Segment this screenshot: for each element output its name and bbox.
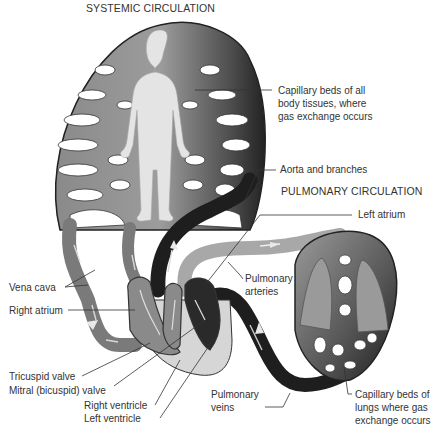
label-pulmonary-veins-line1: Pulmonary — [211, 388, 259, 401]
label-capillary-lungs-line1: Capillary beds of — [355, 388, 429, 401]
label-pulmonary-veins-line2: veins — [211, 401, 234, 414]
label-left-atrium: Left atrium — [358, 208, 405, 221]
label-tricuspid-valve: Tricuspid valve — [9, 370, 75, 383]
label-capillary-lungs-line3: exchange occurs — [355, 414, 431, 427]
label-capillary-body-line2: body tissues, where — [278, 97, 366, 110]
label-aorta: Aorta and branches — [280, 163, 367, 176]
lung-capillary-network — [295, 231, 397, 380]
systemic-circulation-title: SYSTEMIC CIRCULATION — [86, 2, 215, 14]
label-mitral-valve: Mitral (bicuspid) valve — [9, 384, 106, 397]
pulmonary-circulation-title: PULMONARY CIRCULATION — [281, 185, 423, 197]
label-capillary-body-line1: Capillary beds of all — [278, 84, 365, 97]
label-right-atrium: Right atrium — [9, 304, 63, 317]
label-vena-cava: Vena cava — [9, 281, 56, 294]
label-pulmonary-arteries-line2: arteries — [245, 285, 278, 298]
label-pulmonary-arteries-line1: Pulmonary — [245, 272, 293, 285]
label-left-ventricle: Left ventricle — [84, 412, 141, 425]
label-right-ventricle: Right ventricle — [84, 399, 147, 412]
label-capillary-lungs-line2: lungs where gas — [355, 401, 428, 414]
label-capillary-body-line3: gas exchange occurs — [278, 110, 373, 123]
